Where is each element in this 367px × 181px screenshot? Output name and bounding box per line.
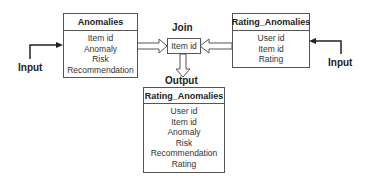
entity-output-title: Rating_Anomalies: [144, 88, 224, 104]
output-arrow-down-icon: [176, 54, 190, 77]
field: User id: [233, 33, 309, 44]
join-label: Join: [172, 22, 193, 33]
join-arrow-left-icon: [137, 39, 167, 53]
field: Anomaly: [144, 127, 224, 138]
join-key-box: Item id: [167, 38, 201, 54]
field: Anomaly: [64, 44, 137, 55]
field: Risk: [144, 138, 224, 149]
entity-anomalies-fields: Item id Anomaly Risk Recommendation: [64, 31, 137, 75]
field: Item id: [233, 44, 309, 55]
entity-output-fields: User id Item id Anomaly Risk Recommendat…: [144, 104, 224, 169]
entity-anomalies: Anomalies Item id Anomaly Risk Recommend…: [63, 13, 138, 78]
field: Rating: [144, 159, 224, 170]
output-label: Output: [165, 75, 198, 86]
field: Recommendation: [144, 148, 224, 159]
entity-rating-anomalies-fields: User id Item id Rating: [233, 31, 309, 65]
entity-anomalies-title: Anomalies: [64, 14, 137, 31]
field: Item id: [144, 117, 224, 128]
right-input-arrow-icon: [309, 38, 341, 54]
field: Recommendation: [64, 65, 137, 76]
field: Rating: [233, 54, 309, 65]
join-arrow-right-icon: [200, 39, 232, 53]
field: Risk: [64, 54, 137, 65]
entity-rating-anomalies-title: Rating_Anomalies: [233, 14, 309, 31]
entity-output: Rating_Anomalies User id Item id Anomaly…: [143, 87, 225, 173]
input-left-label: Input: [18, 62, 42, 73]
field: User id: [144, 106, 224, 117]
entity-rating-anomalies: Rating_Anomalies User id Item id Rating: [232, 13, 310, 68]
input-right-label: Input: [328, 57, 352, 68]
field: Item id: [64, 33, 137, 44]
left-input-arrow-icon: [30, 42, 63, 59]
